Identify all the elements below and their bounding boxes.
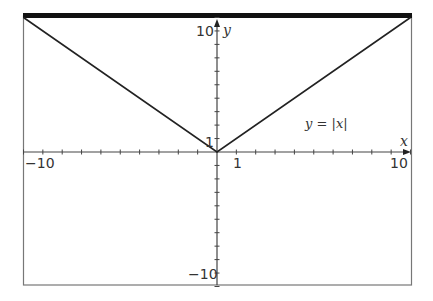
x-tick-label-max: 10 — [390, 155, 408, 171]
equation-label: y = |x| — [304, 116, 348, 131]
x-tick-label-one: 1 — [233, 155, 242, 171]
y-tick-label-min: −10 — [188, 266, 218, 282]
y-tick-label-max: 10 — [196, 23, 214, 39]
y-axis-label: y — [222, 22, 232, 38]
chart-canvas: −10 1 10 10 1 −10 y x y = |x| — [0, 0, 433, 301]
x-axis-label: x — [400, 133, 408, 149]
y-axis-arrow-icon — [214, 19, 220, 27]
y-tick-label-one: 1 — [205, 134, 214, 150]
x-tick-label-min: −10 — [25, 155, 55, 171]
